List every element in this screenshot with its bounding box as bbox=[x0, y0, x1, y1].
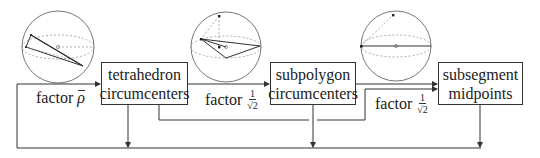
node-label-line2: circumcenters bbox=[100, 84, 190, 103]
node-label-line1: subsegment bbox=[443, 65, 519, 84]
fraction-denominator: √2 bbox=[247, 100, 258, 111]
one-over-sqrt2-fraction: 1 √2 bbox=[247, 89, 258, 111]
subpoly-subseg-factor-label: factor 1 √2 bbox=[375, 92, 428, 116]
node-tetrahedron-circumcenters: tetrahedron circumcenters bbox=[101, 62, 188, 105]
factor-word: factor bbox=[375, 95, 412, 113]
fraction-numerator: 1 bbox=[249, 89, 256, 100]
node-label-line2: circumcenters bbox=[268, 84, 358, 103]
node-label-line1: tetrahedron bbox=[108, 65, 181, 84]
fraction-numerator: 1 bbox=[419, 93, 426, 104]
one-over-sqrt2-fraction: 1 √2 bbox=[417, 93, 428, 115]
sphere-tetrahedron-icon bbox=[22, 11, 94, 83]
sphere-subsegment-icon bbox=[360, 11, 431, 81]
fraction-denominator: √2 bbox=[417, 104, 428, 115]
node-label-line2: midpoints bbox=[448, 84, 512, 103]
node-subsegment-midpoints: subsegment midpoints bbox=[438, 62, 523, 105]
feedback-factor-label: factor ρ bbox=[36, 88, 85, 108]
factor-word: factor bbox=[205, 91, 242, 109]
rho-bar-symbol: ρ bbox=[77, 89, 85, 107]
tetra-subpoly-factor-label: factor 1 √2 bbox=[205, 88, 258, 112]
sphere-subpolygon-icon bbox=[191, 12, 261, 82]
node-label-line1: subpolygon bbox=[276, 65, 351, 84]
factor-word: factor bbox=[36, 89, 73, 107]
node-subpolygon-circumcenters: subpolygon circumcenters bbox=[270, 62, 356, 105]
